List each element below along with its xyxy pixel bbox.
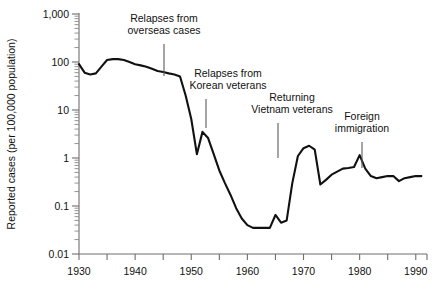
annotation-line: Foreign — [344, 110, 380, 122]
annotation-line: Relapses from — [130, 12, 198, 24]
chart-axes — [79, 13, 427, 260]
y-axis-title-text: Reported cases (per 100,000 population) — [5, 39, 17, 230]
y-axis-tick-label: 0.1 — [54, 200, 69, 212]
annotation-line: Returning — [269, 91, 315, 103]
y-axis-tick-label: 0.01 — [49, 248, 70, 260]
x-axis-tick-label: 1980 — [348, 265, 372, 277]
y-axis-title: Reported cases (per 100,000 population) — [5, 39, 17, 230]
annotation-label-overseas-cases: Relapses fromoverseas cases — [128, 12, 201, 36]
y-axis-tick-labels: 1,0001001010.10.01 — [43, 8, 69, 260]
x-axis-tick-label: 1950 — [180, 265, 204, 277]
chart-figure: 1,0001001010.10.01 193019401950196019701… — [0, 0, 438, 292]
x-axis-tick-label: 1990 — [404, 265, 428, 277]
chart-tick-marks — [72, 14, 416, 260]
x-axis-tick-label: 1930 — [67, 265, 91, 277]
annotation-label-foreign-immigration: Foreignimmigration — [335, 110, 389, 134]
x-axis-tick-label: 1960 — [236, 265, 260, 277]
y-axis-tick-label: 100 — [51, 56, 69, 68]
x-axis-tick-label: 1940 — [123, 265, 147, 277]
y-axis-tick-label: 1,000 — [43, 8, 69, 20]
x-axis-tick-labels: 1930194019501960197019801990 — [67, 265, 427, 277]
annotation-line: Relapses from — [194, 67, 262, 79]
y-axis-tick-label: 10 — [57, 104, 69, 116]
annotation-label-vietnam-veterans: ReturningVietnam veterans — [251, 91, 333, 115]
y-axis-tick-label: 1 — [63, 152, 69, 164]
annotation-line: immigration — [335, 122, 389, 134]
annotation-line: Korean veterans — [189, 79, 266, 91]
x-axis-tick-label: 1970 — [292, 265, 316, 277]
annotation-line: overseas cases — [128, 24, 201, 36]
annotation-label-korean-veterans: Relapses fromKorean veterans — [189, 67, 266, 91]
annotation-line: Vietnam veterans — [251, 103, 333, 115]
line-chart-svg: 1,0001001010.10.01 193019401950196019701… — [0, 0, 438, 292]
